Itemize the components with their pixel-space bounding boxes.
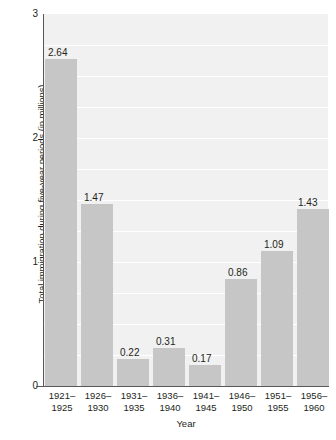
x-tick-label-1946-1950: 1946– 1950 [225, 390, 259, 414]
x-tick-label-1951-1955: 1951– 1955 [261, 390, 295, 414]
bar-value-label-1946-1950: 0.86 [228, 267, 247, 278]
x-tick-line-1: 1926– [81, 390, 115, 402]
x-tick-line-2: 1930 [81, 402, 115, 414]
x-axis-title: Year [44, 418, 328, 430]
x-tick-line-1: 1921– [45, 390, 79, 402]
x-tick-line-1: 1936– [153, 390, 187, 402]
bar-1941-1945[interactable] [189, 365, 221, 386]
x-tick-line-1: 1951– [261, 390, 295, 402]
y-tick-label-2: 2 [20, 133, 38, 143]
bar-1936-1940[interactable] [153, 348, 185, 386]
bar-value-label-1921-1925: 2.64 [48, 47, 67, 58]
x-tick-line-2: 1950 [225, 402, 259, 414]
bar-chart: Total immigration during five-year perio… [0, 0, 336, 440]
bar-1951-1955[interactable] [261, 251, 293, 386]
x-axis-line [36, 386, 329, 387]
x-tick-label-1921-1925: 1921– 1925 [45, 390, 79, 414]
x-tick-line-1: 1956– [297, 390, 331, 402]
bar-1946-1950[interactable] [225, 279, 257, 386]
bar-value-label-1956-1960: 1.43 [298, 197, 317, 208]
x-tick-label-1956-1960: 1956– 1960 [297, 390, 331, 414]
x-tick-line-1: 1931– [117, 390, 151, 402]
bar-1926-1930[interactable] [81, 204, 113, 386]
x-tick-label-1941-1945: 1941– 1945 [189, 390, 223, 414]
y-tick-label-1: 1 [20, 257, 38, 267]
x-tick-line-1: 1946– [225, 390, 259, 402]
y-tick-label-3: 3 [20, 9, 38, 19]
x-tick-line-2: 1935 [117, 402, 151, 414]
bar-1931-1935[interactable] [117, 359, 149, 386]
x-tick-label-1936-1940: 1936– 1940 [153, 390, 187, 414]
bar-1956-1960[interactable] [297, 209, 329, 386]
x-tick-line-1: 1941– [189, 390, 223, 402]
bar-value-label-1941-1945: 0.17 [192, 353, 211, 364]
bar-value-label-1951-1955: 1.09 [264, 239, 283, 250]
x-tick-label-1931-1935: 1931– 1935 [117, 390, 151, 414]
bar-value-label-1931-1935: 0.22 [120, 347, 139, 358]
bar-1921-1925[interactable] [45, 59, 77, 386]
bar-value-label-1926-1930: 1.47 [84, 192, 103, 203]
x-tick-label-1926-1930: 1926– 1930 [81, 390, 115, 414]
x-tick-line-2: 1945 [189, 402, 223, 414]
x-tick-line-2: 1925 [45, 402, 79, 414]
bar-value-label-1936-1940: 0.31 [156, 336, 175, 347]
x-tick-line-2: 1940 [153, 402, 187, 414]
x-tick-line-2: 1960 [297, 402, 331, 414]
x-tick-line-2: 1955 [261, 402, 295, 414]
y-axis-line [43, 14, 44, 387]
